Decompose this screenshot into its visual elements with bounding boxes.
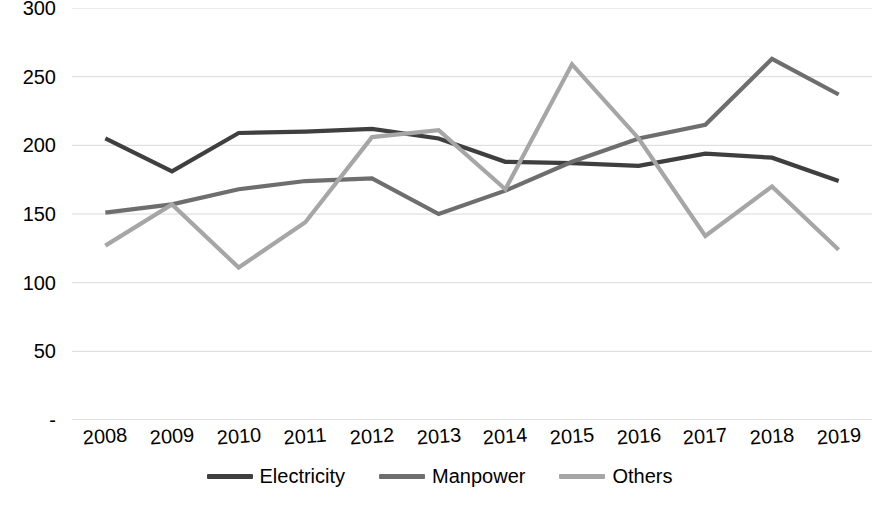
legend-swatch-manpower: [379, 474, 425, 479]
x-axis-tick-label-2010: 2010: [216, 424, 262, 447]
x-axis-tick-label-2012: 2012: [349, 424, 395, 447]
chart-legend: ElectricityManpowerOthers: [0, 466, 879, 486]
x-axis-tick-label-2011: 2011: [283, 425, 327, 448]
x-axis-tick-label-2017: 2017: [682, 424, 728, 447]
legend-label-manpower: Manpower: [432, 466, 525, 486]
y-axis-tick-label: -: [49, 410, 56, 430]
legend-item-manpower[interactable]: Manpower: [379, 466, 525, 486]
x-axis-tick-label-2015: 2015: [549, 424, 595, 447]
y-axis-tick-label: 150: [23, 204, 56, 224]
x-axis: 2008200920102011201220132014201520162017…: [72, 424, 872, 464]
plot-area: [72, 8, 872, 420]
legend-item-others[interactable]: Others: [559, 466, 672, 486]
legend-item-electricity[interactable]: Electricity: [207, 466, 346, 486]
x-axis-tick-label-2014: 2014: [482, 424, 528, 447]
x-axis-tick-label-2019: 2019: [816, 424, 862, 447]
x-axis-tick-label-2016: 2016: [616, 424, 662, 447]
legend-swatch-others: [559, 474, 605, 479]
series-lines: [72, 8, 872, 420]
y-axis-tick-label: 100: [23, 273, 56, 293]
y-axis-tick-label: 250: [23, 67, 56, 87]
x-axis-tick-label-2008: 2008: [82, 424, 128, 447]
y-axis-tick-label: 200: [23, 135, 56, 155]
legend-label-others: Others: [612, 466, 672, 486]
line-chart: 30025020015010050- 200820092010201120122…: [0, 0, 879, 522]
y-axis: 30025020015010050-: [0, 0, 64, 428]
y-axis-tick-label: 50: [34, 341, 56, 361]
series-line-electricity: [105, 129, 838, 181]
x-axis-tick-label-2009: 2009: [149, 424, 195, 447]
legend-label-electricity: Electricity: [260, 466, 346, 486]
series-line-others: [105, 64, 838, 267]
y-axis-tick-label: 300: [23, 0, 56, 18]
x-axis-tick-label-2013: 2013: [416, 424, 462, 447]
x-axis-tick-label-2018: 2018: [749, 424, 795, 447]
legend-swatch-electricity: [207, 474, 253, 479]
series-line-manpower: [105, 59, 838, 214]
